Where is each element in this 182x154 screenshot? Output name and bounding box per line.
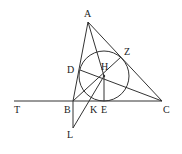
label-Z: Z — [124, 47, 130, 57]
label-B: B — [64, 105, 71, 115]
label-H: H — [101, 62, 108, 72]
diagram-canvas — [0, 0, 182, 154]
line-L-H — [73, 76, 104, 128]
geometry-diagram: A Z H D T B K E C L — [0, 0, 182, 154]
label-L: L — [67, 130, 73, 140]
point-H-dot — [103, 75, 105, 77]
label-T: T — [14, 105, 20, 115]
label-C: C — [163, 105, 170, 115]
label-E: E — [101, 105, 107, 115]
label-D: D — [67, 65, 74, 75]
label-A: A — [84, 9, 91, 19]
label-K: K — [90, 105, 97, 115]
